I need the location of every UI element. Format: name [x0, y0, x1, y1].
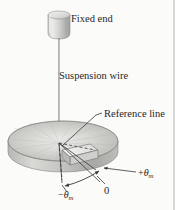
label-zero-angle: 0 — [104, 186, 109, 197]
label-fixed-end: Fixed end — [71, 14, 113, 25]
support-cylinder — [48, 11, 70, 39]
label-reference-line: Reference line — [104, 109, 165, 120]
torsion-pendulum-figure: Fixed end Suspension wire Reference line… — [0, 0, 175, 210]
label-minus-theta-max: −θm — [58, 190, 73, 202]
theta-subscript: m — [149, 172, 154, 179]
angular-displacement-arc — [65, 171, 99, 186]
label-plus-theta-max: +θm — [138, 168, 153, 180]
label-suspension-wire: Suspension wire — [59, 71, 128, 82]
plus-theta-pointer — [104, 168, 136, 172]
theta-subscript: m — [69, 194, 74, 201]
